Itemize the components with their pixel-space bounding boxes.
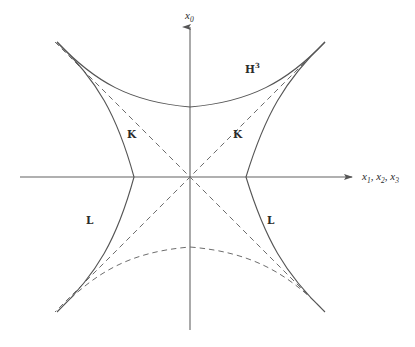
axis-label-x0: x0 (185, 10, 194, 24)
region-label-l-right: L (267, 215, 274, 226)
h3-lower-sheet-curve (57, 247, 325, 312)
hyperboloid-figure: x0 x1, x2, x3 H3 K K L L (0, 0, 415, 347)
h3-upper-sheet-curve (57, 42, 325, 107)
curve-label-h3: H3 (245, 62, 260, 74)
figure-canvas (0, 0, 415, 347)
cone-label-k-right: K (233, 129, 242, 140)
curve-label-h3-sup: 3 (255, 61, 260, 70)
axis-label-x3-sub: 3 (395, 176, 399, 185)
axis-label-x0-sub: 0 (190, 15, 194, 24)
axes-group (20, 27, 352, 330)
region-label-l-left: L (86, 215, 93, 226)
axis-label-spatial: x1, x2, x3 (362, 171, 399, 185)
curve-label-h3-base: H (245, 63, 255, 75)
cone-label-k-left: K (127, 129, 136, 140)
